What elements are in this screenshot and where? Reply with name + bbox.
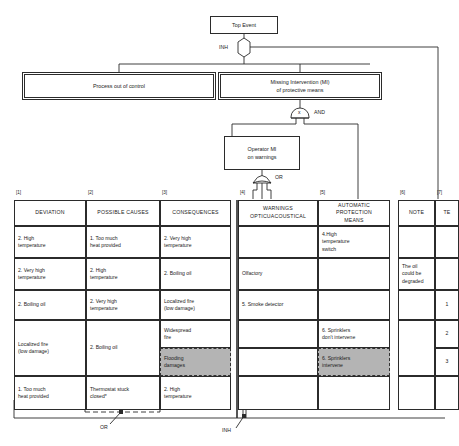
- cell-protection-means-3[interactable]: [318, 290, 390, 320]
- cell-warnings-3[interactable]: 5. Smoke detector: [238, 290, 318, 320]
- process-out-of-control-box[interactable]: Process out of control: [22, 72, 216, 100]
- cell-te-6[interactable]: [435, 376, 459, 410]
- cell-consequences-1[interactable]: 2. Very high temperature: [160, 226, 231, 258]
- missing-intervention-box[interactable]: Missing Intervention (MI) of protective …: [218, 72, 382, 100]
- gate-or-operator-label: OR: [275, 174, 283, 180]
- cell-warnings-2[interactable]: Olfactory: [238, 258, 318, 290]
- column-header-deviation: DEVIATION: [14, 200, 86, 226]
- cell-deviation-3[interactable]: 2. Boiling oil: [14, 290, 86, 320]
- process-out-of-control-label: Process out of control: [93, 82, 145, 90]
- operator-mi-box[interactable]: Operator MI on warnings: [224, 136, 300, 170]
- cell-te-1[interactable]: [435, 226, 459, 258]
- column-number-7: [7]: [437, 190, 442, 195]
- gate-inh-bottom-label: INH: [222, 427, 231, 433]
- cell-possible-causes-1[interactable]: 1. Too much heat provided: [86, 226, 160, 258]
- cell-note-4[interactable]: [398, 320, 435, 376]
- cell-warnings-4[interactable]: [238, 320, 318, 348]
- gate-and-top-label: AND: [314, 109, 325, 115]
- cell-consequences-5[interactable]: Flooding damages: [160, 348, 231, 376]
- column-number-2: [2]: [88, 190, 93, 195]
- cell-possible-causes-4[interactable]: 2. Boiling oil: [86, 320, 160, 376]
- column-number-4: [4]: [240, 190, 245, 195]
- gate-inh-top-label: INH: [219, 44, 228, 50]
- cell-te-4[interactable]: 2: [435, 320, 459, 348]
- cell-protection-means-5[interactable]: 6. Sprinklers intervene: [318, 348, 390, 376]
- column-header-note: NOTE: [398, 200, 435, 226]
- top-event-label: Top Event: [232, 21, 256, 29]
- cell-protection-means-4[interactable]: 6. Sprinklers don't intervene: [318, 320, 390, 348]
- cell-consequences-3[interactable]: Localized fire (low damage): [160, 290, 231, 320]
- cell-note-3[interactable]: [398, 290, 435, 320]
- cell-warnings-6[interactable]: [238, 376, 318, 410]
- cell-protection-means-2[interactable]: [318, 258, 390, 290]
- top-event-box[interactable]: Top Event: [210, 16, 278, 34]
- column-number-1: [1]: [16, 190, 21, 195]
- cell-deviation-1[interactable]: 2. High temperature: [14, 226, 86, 258]
- cell-possible-causes-2[interactable]: 2. High temperature: [86, 258, 160, 290]
- column-number-3: [3]: [162, 190, 167, 195]
- column-header-protection-means: AUTOMATIC PROTECTION MEANS: [318, 200, 390, 226]
- column-number-5: [5]: [320, 190, 325, 195]
- column-header-consequences: CONSEQUENCES: [160, 200, 231, 226]
- cell-consequences-6[interactable]: 2. High temperature: [160, 376, 231, 410]
- cell-deviation-2[interactable]: 2. Very high temperature: [14, 258, 86, 290]
- cell-te-3[interactable]: 1: [435, 290, 459, 320]
- cell-warnings-5[interactable]: [238, 348, 318, 376]
- cell-warnings-1[interactable]: [238, 226, 318, 258]
- cell-consequences-2[interactable]: 2. Boiling oil: [160, 258, 231, 290]
- cell-te-2[interactable]: [435, 258, 459, 290]
- cell-possible-causes-3[interactable]: 2. Very high temperature: [86, 290, 160, 320]
- cell-te-5[interactable]: 3: [435, 348, 459, 376]
- operator-mi-label: Operator MI on warnings: [247, 145, 276, 161]
- cell-protection-means-1[interactable]: 4.High temperature switch: [318, 226, 390, 258]
- column-header-warnings: WARNINGS OPTICUACOUSTICAL: [238, 200, 318, 226]
- column-number-6: [6]: [400, 190, 405, 195]
- column-header-possible-causes: POSSIBLE CAUSES: [86, 200, 160, 226]
- cell-protection-means-6[interactable]: [318, 376, 390, 410]
- gate-or-bottom-label: OR: [100, 424, 108, 430]
- cell-note-2[interactable]: The oil could be degraded: [398, 258, 435, 290]
- cell-note-1[interactable]: [398, 226, 435, 258]
- cell-deviation-4[interactable]: Localized fire (low damage): [14, 320, 86, 376]
- missing-intervention-label: Missing Intervention (MI) of protective …: [270, 78, 329, 94]
- cell-deviation-5[interactable]: 1. Too much heat provided: [14, 376, 86, 410]
- cell-possible-causes-5[interactable]: Thermostat stuck closed*: [86, 376, 160, 410]
- column-header-te: TE: [435, 200, 459, 226]
- cell-note-5[interactable]: [398, 376, 435, 410]
- cell-consequences-4[interactable]: Widespread fire: [160, 320, 231, 348]
- and-gate-marker: x: [298, 109, 301, 115]
